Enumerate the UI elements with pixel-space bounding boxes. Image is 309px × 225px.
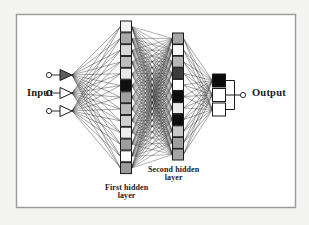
- first-hidden-node: [121, 21, 132, 32]
- first-hidden-node: [121, 163, 132, 174]
- neural-network-diagram: [0, 0, 309, 225]
- second-hidden-node: [173, 149, 184, 160]
- second-hidden-node: [173, 33, 184, 44]
- first-hidden-node: [121, 151, 132, 162]
- first-hidden-node: [121, 68, 132, 79]
- first-hidden-node: [121, 104, 132, 115]
- input-node-circle: [46, 108, 51, 113]
- first-hidden-node: [121, 33, 132, 44]
- second-hidden-node: [173, 56, 184, 67]
- second-hidden-node: [173, 137, 184, 148]
- first-hidden-node: [121, 80, 132, 91]
- label-input: Input: [27, 87, 53, 98]
- output-node: [213, 74, 226, 87]
- first-hidden-node: [121, 45, 132, 56]
- second-hidden-node: [173, 126, 184, 137]
- label-output: Output: [252, 87, 286, 98]
- first-hidden-node: [121, 127, 132, 138]
- input-node-circle: [46, 72, 51, 77]
- label-first-hidden-layer: First hidden layer: [105, 184, 148, 201]
- layer-second-hidden-nodes: [173, 33, 184, 160]
- first-hidden-node: [121, 139, 132, 150]
- label-first-hidden-line2: layer: [105, 192, 148, 200]
- label-second-hidden-line2: layer: [148, 174, 199, 182]
- first-hidden-node: [121, 92, 132, 103]
- layer-first-hidden-nodes: [121, 21, 132, 174]
- second-hidden-node: [173, 45, 184, 56]
- second-hidden-node: [173, 114, 184, 125]
- first-hidden-node: [121, 115, 132, 126]
- second-hidden-node: [173, 68, 184, 79]
- second-hidden-node: [173, 79, 184, 90]
- layer-output-nodes: [213, 74, 226, 116]
- second-hidden-node: [173, 91, 184, 102]
- output-terminal-circle: [240, 92, 245, 97]
- second-hidden-node: [173, 103, 184, 114]
- output-node: [213, 89, 226, 102]
- first-hidden-node: [121, 56, 132, 67]
- label-second-hidden-layer: Second hidden layer: [148, 166, 199, 183]
- output-node: [213, 103, 226, 116]
- figure-root: Input Output First hidden layer Second h…: [0, 0, 309, 225]
